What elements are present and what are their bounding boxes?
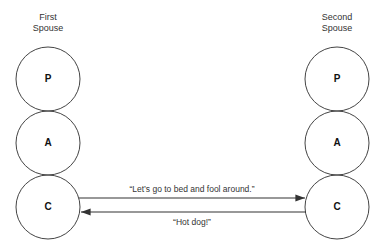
first-parent-letter: P [38,73,58,85]
second-adult-letter: A [327,137,347,149]
second-child-letter: C [327,201,347,213]
second-parent-letter: P [327,73,347,85]
first-adult-letter: A [38,137,58,149]
first-spouse-label: First Spouse [18,12,78,34]
message-stimulus: “Let’s go to bed and fool around.” [122,184,262,194]
second-spouse-label: Second Spouse [307,12,367,34]
first-child-letter: C [38,201,58,213]
message-response: “Hot dog!” [152,217,232,227]
